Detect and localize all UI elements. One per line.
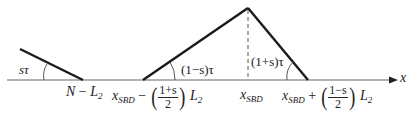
angle-label-one-plus-s-tau: (1+s)τ bbox=[251, 55, 284, 68]
tick-label-right-base: xSBD + (1−s2) L2 bbox=[282, 84, 372, 110]
angle-label-one-minus-s-tau: (1−s)τ bbox=[181, 63, 214, 76]
fraction-one-minus-s-over-two: 1−s2 bbox=[328, 84, 347, 110]
angle-arc-one-plus-s-tau bbox=[287, 62, 293, 80]
tick-label-n-minus-l2: N − L2 bbox=[66, 85, 103, 101]
x-axis-label: x bbox=[400, 71, 406, 85]
triangle-right-edge bbox=[248, 8, 308, 80]
tick-label-apex: xSBD bbox=[240, 88, 263, 104]
angle-arc-one-minus-s-tau bbox=[170, 62, 175, 80]
angle-arc-s-tau bbox=[44, 64, 47, 80]
x-axis-arrowhead-icon bbox=[389, 77, 398, 84]
angle-label-s-tau: sτ bbox=[19, 63, 29, 76]
fraction-one-plus-s-over-two: 1+s2 bbox=[158, 84, 177, 110]
tick-label-left-base: xSBD − (1+s2) L2 bbox=[112, 84, 202, 110]
sbd-profile-diagram: x sτ (1−s)τ (1+s)τ N − L2 xSBD − (1+s2) … bbox=[0, 0, 418, 123]
left-slope-line bbox=[20, 49, 83, 80]
